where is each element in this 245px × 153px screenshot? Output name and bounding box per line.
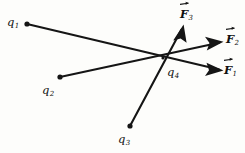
charge-label-q1-base: q bbox=[7, 15, 14, 29]
force-label-F3-vector: F bbox=[180, 5, 188, 21]
charge-point-q3 bbox=[127, 123, 132, 128]
force-label-F1-subscript: 1 bbox=[233, 70, 237, 78]
force-label-F3-base: F bbox=[180, 7, 188, 21]
charge-label-q-center: q4 bbox=[167, 63, 179, 80]
force-vector-F1 bbox=[27, 24, 224, 76]
charge-label-q3-subscript: 3 bbox=[126, 139, 130, 147]
force-label-F2-base: F bbox=[226, 32, 234, 46]
F2-shaft bbox=[60, 43, 219, 77]
charge-label-q2-subscript: 2 bbox=[50, 90, 54, 98]
charge-label-q1-subscript: 1 bbox=[15, 22, 19, 30]
charge-point-q-center bbox=[161, 56, 164, 59]
force-label-F1-base: F bbox=[224, 63, 232, 77]
force-diagram-figure: q1 q2 q3 q4 F1 F2 bbox=[0, 0, 245, 153]
charge-label-q1: q1 bbox=[7, 13, 19, 30]
charge-label-q3: q3 bbox=[118, 130, 130, 147]
force-label-F1: F1 bbox=[224, 61, 237, 78]
F2-arrowhead bbox=[205, 37, 224, 51]
force-label-F3-subscript: 3 bbox=[189, 14, 193, 22]
force-label-F3: F3 bbox=[180, 5, 193, 22]
force-label-F1-vector: F bbox=[224, 61, 232, 77]
force-label-F2: F2 bbox=[226, 30, 239, 47]
charge-label-q3-base: q bbox=[118, 132, 125, 146]
charge-label-q2: q2 bbox=[42, 81, 54, 98]
charge-label-q-center-base: q bbox=[167, 65, 174, 79]
charge-point-q1 bbox=[24, 21, 29, 26]
F1-arrowhead bbox=[205, 63, 224, 76]
force-label-F2-subscript: 2 bbox=[235, 39, 239, 47]
F3-arrowhead bbox=[173, 25, 186, 43]
charge-point-q2 bbox=[57, 74, 62, 79]
charge-label-q2-base: q bbox=[42, 83, 49, 97]
charge-label-q-center-subscript: 4 bbox=[175, 72, 179, 80]
force-vector-F2 bbox=[60, 37, 224, 77]
force-label-F2-vector: F bbox=[226, 30, 234, 46]
